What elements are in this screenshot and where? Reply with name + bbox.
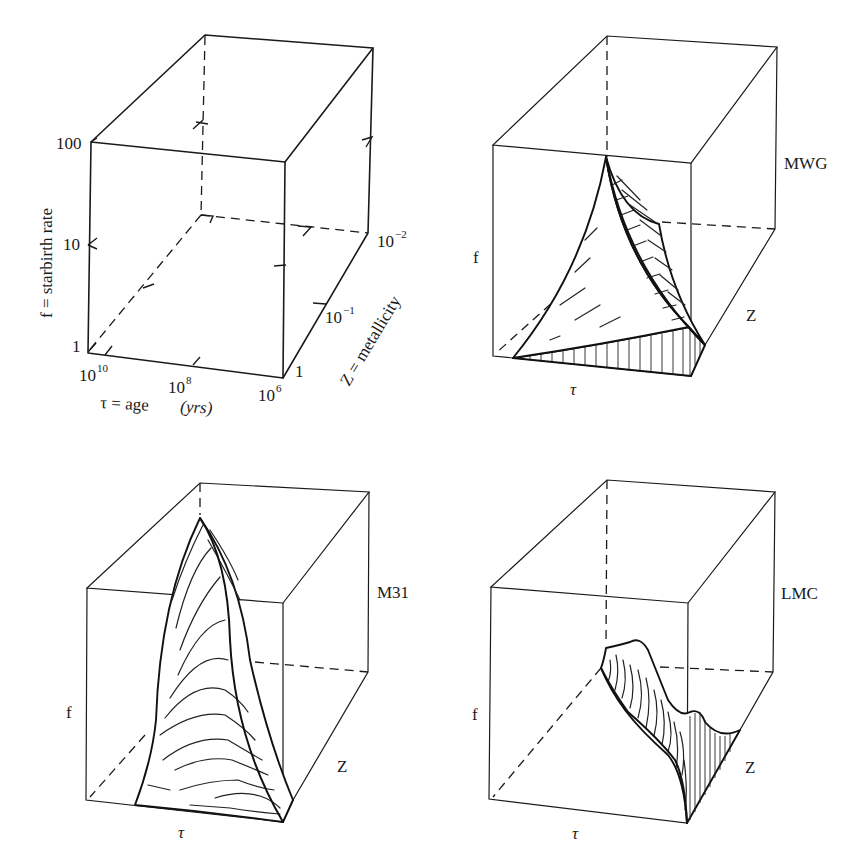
svg-text:τ = age: τ = age (100, 393, 149, 415)
svg-text:8: 8 (186, 374, 192, 386)
hidden-edge-left-bottom (88, 215, 201, 352)
f-tick-label-100: 100 (56, 134, 82, 153)
hidden-edge-back-bottom (662, 222, 775, 229)
hidden-edge-back-bottom (660, 667, 773, 672)
f-tick-label-10: 10 (63, 235, 80, 254)
m31-surface (135, 518, 293, 822)
f-axis-label: f (66, 703, 72, 722)
panel-mwg: MWG f τ Z (473, 36, 827, 399)
tau-tick-label-1e6: 10 6 (258, 382, 282, 405)
back-f-tick (193, 120, 208, 129)
svg-text:−2: −2 (395, 228, 407, 240)
svg-text:6: 6 (276, 382, 282, 394)
tau-tick-1e8 (193, 357, 200, 365)
z-tick-label-1: 1 (295, 362, 304, 381)
panel-axes-key: 100 10 1 10 10 10 8 10 6 1 10 −1 10 −2 f… (37, 35, 407, 418)
tau-axis-label: τ (572, 824, 579, 843)
z-axis-label: Z (745, 758, 755, 777)
z-tick-label-1e-2: 10 −2 (377, 228, 407, 251)
f-axis-label: f (473, 248, 479, 267)
cube-top-face (491, 480, 775, 603)
z-axis-label: Z (337, 757, 347, 776)
panel-lmc: LMC f τ Z (472, 480, 818, 843)
svg-text:10: 10 (258, 386, 275, 405)
f-tick-label-1: 1 (72, 337, 81, 356)
panel-m31: M31 f τ Z (66, 483, 409, 842)
tau-tick-label-1e8: 10 8 (168, 374, 192, 397)
dashed-diag-tick (143, 284, 154, 288)
f-axis-label: f (472, 705, 478, 724)
panel-title-lmc: LMC (781, 584, 818, 603)
svg-text:10: 10 (79, 366, 96, 385)
svg-text:(yrs): (yrs) (180, 397, 213, 418)
back-corner-tick (201, 215, 213, 223)
tau-axis-label: τ (570, 380, 577, 399)
svg-text:10: 10 (97, 362, 109, 374)
hidden-edge-vertical (606, 480, 607, 645)
hidden-edge-back-bottom (255, 662, 368, 672)
panel-title-m31: M31 (377, 583, 409, 602)
cube-back-right-edge (283, 48, 373, 378)
svg-text:10: 10 (377, 232, 394, 251)
svg-text:10: 10 (325, 308, 342, 327)
cube-back-right-edge (293, 492, 369, 800)
tau-tick-label-1e10: 10 10 (79, 362, 109, 385)
cube-top-face (91, 35, 373, 162)
panel-title-mwg: MWG (784, 154, 827, 173)
z-tick-label-1e-1: 10 −1 (325, 304, 355, 327)
z-tick-front (274, 265, 286, 266)
cube-top-face (493, 36, 777, 163)
back-bottom-tick (298, 226, 311, 236)
hidden-edge-vertical (201, 36, 205, 215)
cube-back-right-edge (740, 492, 775, 730)
hidden-edge-left-bottom (493, 668, 601, 797)
z-tick-1e-1 (313, 303, 326, 304)
f-axis-title: f = starbirth rate (37, 208, 56, 318)
f-tick-1 (88, 343, 96, 352)
hidden-edge-left-bottom (90, 735, 145, 797)
cube-front-face (88, 142, 285, 378)
svg-text:−1: −1 (343, 304, 355, 316)
svg-text:10: 10 (168, 378, 185, 397)
tau-axis-label: τ (178, 823, 185, 842)
tau-tick-1e10 (105, 346, 112, 355)
tau-axis-title: τ = age (yrs) (100, 393, 213, 418)
z-axis-label: Z (746, 306, 756, 325)
cube-back-right-edge (705, 47, 777, 345)
figure-canvas: 100 10 1 10 10 10 8 10 6 1 10 −1 10 −2 f… (0, 0, 861, 861)
